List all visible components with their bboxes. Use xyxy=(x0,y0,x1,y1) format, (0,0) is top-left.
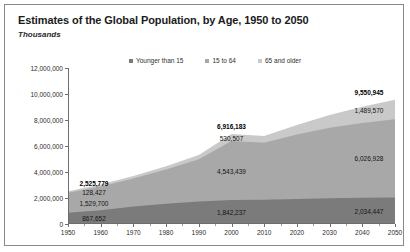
x-axis-tick-mark xyxy=(232,224,233,227)
y-axis-tick-label: 8,000,000 xyxy=(34,117,63,124)
x-axis-tick-mark xyxy=(330,224,331,227)
x-axis-minor-tick-mark xyxy=(117,224,118,226)
y-axis-tick-mark xyxy=(65,172,68,173)
chart-units-label: Thousands xyxy=(18,30,61,39)
legend-item-2[interactable]: 65 and older xyxy=(258,57,301,64)
x-axis-tick-label: 2000 xyxy=(224,229,238,236)
plot-area: 02,000,0004,000,0006,000,0008,000,00010,… xyxy=(68,68,395,224)
legend-item-label: 15 to 64 xyxy=(212,57,236,64)
plot-frame xyxy=(68,68,395,224)
x-axis-tick-label: 2030 xyxy=(322,229,336,236)
x-axis-minor-tick-mark xyxy=(313,224,314,226)
x-axis-minor-tick-mark xyxy=(182,224,183,226)
y-axis-tick-label: 2,000,000 xyxy=(34,195,63,202)
x-axis-minor-tick-mark xyxy=(379,224,380,226)
y-axis-tick-mark xyxy=(65,120,68,121)
data-label: 6,026,928 xyxy=(355,155,384,162)
chart-figure: Estimates of the Global Population, by A… xyxy=(4,4,404,246)
legend-swatch-icon xyxy=(129,59,133,63)
y-axis-tick-mark xyxy=(65,198,68,199)
data-label: 9,550,945 xyxy=(355,88,384,95)
y-axis-tick-mark xyxy=(65,68,68,69)
x-axis-minor-tick-mark xyxy=(248,224,249,226)
x-axis-tick-label: 2020 xyxy=(290,229,304,236)
data-label: 530,507 xyxy=(220,134,244,141)
x-axis-tick-label: 1960 xyxy=(93,229,107,236)
x-axis-tick-mark xyxy=(395,224,396,227)
x-axis-tick-label: 2010 xyxy=(257,229,271,236)
legend-item-0[interactable]: Younger than 15 xyxy=(129,57,183,64)
x-axis-minor-tick-mark xyxy=(215,224,216,226)
data-label: 1,842,237 xyxy=(217,209,246,216)
page-title: Estimates of the Global Population, by A… xyxy=(18,14,308,26)
x-axis-tick-label: 1950 xyxy=(61,229,75,236)
data-label: 2,034,447 xyxy=(355,207,384,214)
x-axis-tick-mark xyxy=(264,224,265,227)
x-axis-tick-label: 2040 xyxy=(355,229,369,236)
x-axis-tick-label: 1980 xyxy=(159,229,173,236)
x-axis-tick-label: 2050 xyxy=(388,229,402,236)
data-label: 128,427 xyxy=(82,188,106,195)
x-axis-minor-tick-mark xyxy=(84,224,85,226)
legend-swatch-icon xyxy=(258,59,262,63)
data-label: 1,489,570 xyxy=(355,106,384,113)
legend-swatch-icon xyxy=(205,59,209,63)
y-axis-tick-label: 4,000,000 xyxy=(34,169,63,176)
x-axis-tick-mark xyxy=(101,224,102,227)
y-axis-tick-mark xyxy=(65,94,68,95)
x-axis-tick-mark xyxy=(133,224,134,227)
y-axis-tick-label: 10,000,000 xyxy=(30,91,63,98)
legend-item-1[interactable]: 15 to 64 xyxy=(205,57,236,64)
x-axis-minor-tick-mark xyxy=(281,224,282,226)
x-axis-tick-mark xyxy=(166,224,167,227)
x-axis-tick-mark xyxy=(362,224,363,227)
chart-legend: Younger than 1515 to 6465 and older xyxy=(129,57,301,64)
x-axis-tick-mark xyxy=(199,224,200,227)
data-label: 2,525,779 xyxy=(80,180,109,187)
x-axis-tick-mark xyxy=(297,224,298,227)
x-axis-tick-label: 1990 xyxy=(192,229,206,236)
x-axis-minor-tick-mark xyxy=(150,224,151,226)
x-axis-tick-label: 1970 xyxy=(126,229,140,236)
y-axis-tick-label: 0 xyxy=(59,221,63,228)
y-axis-tick-label: 12,000,000 xyxy=(30,65,63,72)
data-label: 1,529,700 xyxy=(80,199,109,206)
legend-item-label: 65 and older xyxy=(265,57,301,64)
data-label: 867,652 xyxy=(82,215,106,222)
legend-item-label: Younger than 15 xyxy=(136,57,183,64)
x-axis-minor-tick-mark xyxy=(346,224,347,226)
data-label: 4,543,439 xyxy=(217,167,246,174)
x-axis-tick-mark xyxy=(68,224,69,227)
data-label: 6,916,183 xyxy=(217,123,246,130)
y-axis-tick-label: 6,000,000 xyxy=(34,143,63,150)
y-axis-tick-mark xyxy=(65,146,68,147)
